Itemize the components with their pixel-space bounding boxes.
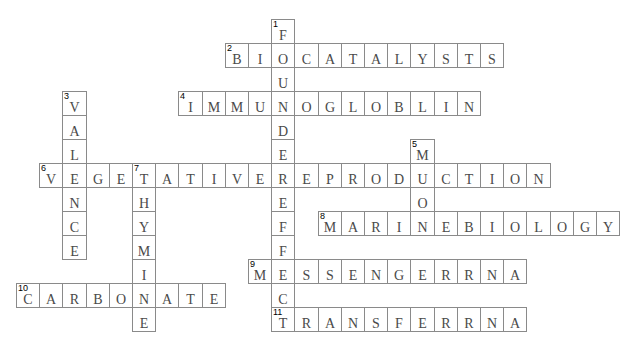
- crossword-cell[interactable]: E: [341, 259, 365, 284]
- crossword-cell[interactable]: A: [155, 163, 179, 188]
- crossword-cell[interactable]: A: [364, 43, 388, 68]
- crossword-cell[interactable]: D: [387, 163, 411, 188]
- crossword-cell[interactable]: O: [364, 91, 388, 116]
- crossword-cell[interactable]: L: [387, 43, 411, 68]
- crossword-cell[interactable]: C: [271, 283, 295, 308]
- crossword-cell[interactable]: N: [341, 307, 365, 332]
- crossword-cell[interactable]: N: [526, 163, 551, 188]
- crossword-cell[interactable]: I: [434, 91, 458, 116]
- crossword-cell[interactable]: T: [178, 163, 203, 188]
- crossword-cell[interactable]: 4I: [178, 91, 203, 116]
- crossword-cell[interactable]: R: [434, 259, 458, 284]
- crossword-cell[interactable]: F: [387, 307, 411, 332]
- crossword-cell[interactable]: E: [410, 307, 435, 332]
- crossword-cell[interactable]: N: [62, 187, 87, 212]
- crossword-cell[interactable]: I: [202, 163, 226, 188]
- crossword-cell[interactable]: S: [364, 307, 388, 332]
- crossword-cell[interactable]: E: [271, 187, 295, 212]
- crossword-cell[interactable]: A: [62, 115, 87, 140]
- crossword-cell[interactable]: P: [318, 163, 342, 188]
- crossword-cell[interactable]: L: [62, 139, 87, 164]
- crossword-cell[interactable]: E: [62, 163, 87, 188]
- crossword-cell[interactable]: T: [457, 43, 481, 68]
- crossword-cell[interactable]: 11T: [271, 307, 295, 332]
- crossword-cell[interactable]: Y: [132, 211, 156, 236]
- crossword-cell[interactable]: O: [410, 187, 435, 212]
- crossword-cell[interactable]: N: [480, 259, 504, 284]
- crossword-cell[interactable]: E: [62, 235, 87, 260]
- crossword-cell[interactable]: G: [387, 259, 411, 284]
- crossword-cell[interactable]: S: [294, 259, 319, 284]
- crossword-cell[interactable]: I: [480, 211, 504, 236]
- crossword-cell[interactable]: E: [271, 139, 295, 164]
- crossword-cell[interactable]: Y: [596, 211, 620, 236]
- crossword-cell[interactable]: G: [573, 211, 597, 236]
- crossword-cell[interactable]: A: [155, 283, 179, 308]
- crossword-cell[interactable]: 10C: [16, 283, 40, 308]
- crossword-cell[interactable]: 3V: [62, 91, 87, 116]
- crossword-cell[interactable]: B: [387, 91, 411, 116]
- crossword-cell[interactable]: E: [294, 163, 319, 188]
- crossword-cell[interactable]: H: [132, 187, 156, 212]
- crossword-cell[interactable]: T: [341, 43, 365, 68]
- crossword-cell[interactable]: B: [457, 211, 481, 236]
- crossword-cell[interactable]: D: [271, 115, 295, 140]
- crossword-cell[interactable]: L: [341, 91, 365, 116]
- crossword-cell[interactable]: N: [132, 283, 156, 308]
- crossword-cell[interactable]: N: [271, 91, 295, 116]
- crossword-cell[interactable]: 7T: [132, 163, 156, 188]
- crossword-cell[interactable]: E: [410, 259, 435, 284]
- crossword-cell[interactable]: C: [434, 163, 458, 188]
- crossword-cell[interactable]: A: [318, 307, 342, 332]
- crossword-cell[interactable]: R: [364, 211, 388, 236]
- crossword-cell[interactable]: M: [132, 235, 156, 260]
- crossword-cell[interactable]: B: [86, 283, 110, 308]
- crossword-cell[interactable]: 8M: [318, 211, 342, 236]
- crossword-cell[interactable]: 2B: [225, 43, 249, 68]
- crossword-cell[interactable]: O: [503, 211, 527, 236]
- crossword-cell[interactable]: O: [550, 211, 574, 236]
- crossword-cell[interactable]: A: [341, 211, 365, 236]
- crossword-cell[interactable]: N: [410, 211, 435, 236]
- crossword-cell[interactable]: R: [457, 307, 481, 332]
- crossword-cell[interactable]: R: [271, 163, 295, 188]
- crossword-cell[interactable]: I: [248, 43, 272, 68]
- crossword-cell[interactable]: U: [248, 91, 272, 116]
- crossword-cell[interactable]: O: [294, 91, 319, 116]
- crossword-cell[interactable]: V: [225, 163, 249, 188]
- crossword-cell[interactable]: L: [410, 91, 435, 116]
- crossword-cell[interactable]: M: [225, 91, 249, 116]
- crossword-cell[interactable]: F: [271, 211, 295, 236]
- crossword-cell[interactable]: O: [503, 163, 527, 188]
- crossword-cell[interactable]: S: [480, 43, 504, 68]
- crossword-cell[interactable]: C: [294, 43, 319, 68]
- crossword-cell[interactable]: 1F: [271, 19, 295, 44]
- crossword-cell[interactable]: A: [39, 283, 63, 308]
- crossword-cell[interactable]: N: [457, 91, 481, 116]
- crossword-cell[interactable]: I: [132, 259, 156, 284]
- crossword-cell[interactable]: M: [202, 91, 226, 116]
- crossword-cell[interactable]: E: [109, 163, 133, 188]
- crossword-cell[interactable]: T: [457, 163, 481, 188]
- crossword-cell[interactable]: L: [526, 211, 551, 236]
- crossword-cell[interactable]: A: [503, 259, 527, 284]
- crossword-cell[interactable]: O: [364, 163, 388, 188]
- crossword-cell[interactable]: R: [62, 283, 87, 308]
- crossword-cell[interactable]: E: [202, 283, 226, 308]
- crossword-cell[interactable]: N: [480, 307, 504, 332]
- crossword-cell[interactable]: I: [480, 163, 504, 188]
- crossword-cell[interactable]: E: [248, 163, 272, 188]
- crossword-cell[interactable]: A: [318, 43, 342, 68]
- crossword-cell[interactable]: R: [341, 163, 365, 188]
- crossword-cell[interactable]: G: [318, 91, 342, 116]
- crossword-cell[interactable]: N: [364, 259, 388, 284]
- crossword-cell[interactable]: E: [434, 211, 458, 236]
- crossword-cell[interactable]: 5M: [410, 139, 435, 164]
- crossword-cell[interactable]: E: [132, 307, 156, 332]
- crossword-cell[interactable]: R: [434, 307, 458, 332]
- crossword-cell[interactable]: S: [434, 43, 458, 68]
- crossword-cell[interactable]: 6V: [39, 163, 63, 188]
- crossword-cell[interactable]: Y: [410, 43, 435, 68]
- crossword-cell[interactable]: E: [271, 259, 295, 284]
- crossword-cell[interactable]: R: [457, 259, 481, 284]
